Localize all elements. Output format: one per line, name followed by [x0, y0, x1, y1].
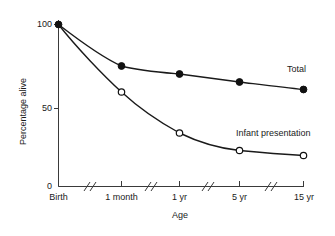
series-label-total: Total [287, 64, 306, 74]
data-point-infant-5-yr [236, 147, 242, 153]
data-point-infant-1-month [118, 89, 124, 95]
chart-figure: 100 50 0 Birth 1 month 1 yr 5 yr 15 yr P… [0, 0, 335, 236]
series-markers-total [55, 21, 307, 93]
data-point-total-1-yr [176, 71, 183, 78]
x-tick-label-15-yr: 15 yr [280, 192, 328, 202]
series-curve-total [59, 25, 304, 90]
data-point-infant-1-yr [176, 130, 182, 136]
data-point-infant-15-yr [300, 152, 306, 158]
y-axis-title: Percentage alive [18, 78, 28, 145]
data-point-total-birth [55, 21, 62, 28]
y-tick-label-0: 0 [26, 181, 52, 191]
series-label-infant-presentation: Infant presentation [236, 128, 311, 138]
x-axis-title: Age [160, 210, 200, 220]
series-markers-infant-presentation [118, 89, 306, 159]
data-point-total-15-yr [300, 86, 307, 93]
x-tick-label-5-yr: 5 yr [217, 192, 262, 202]
y-tick-label-100: 100 [26, 19, 52, 29]
x-tick-label-birth: Birth [36, 192, 81, 202]
data-point-total-1-month [118, 63, 125, 70]
x-tick-label-1-yr: 1 yr [157, 192, 202, 202]
data-point-total-5-yr [236, 79, 243, 86]
x-tick-label-1-month: 1 month [94, 192, 149, 202]
y-tick-label-50: 50 [26, 103, 52, 113]
